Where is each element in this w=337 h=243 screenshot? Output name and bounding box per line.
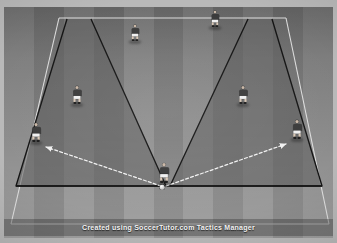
player-boots <box>293 137 301 139</box>
player-figure <box>73 86 82 104</box>
player-head <box>34 123 38 127</box>
player-head <box>295 120 299 124</box>
player-figure <box>292 120 301 139</box>
tactical-zones <box>16 19 322 186</box>
player-boots <box>212 25 219 27</box>
player-figure <box>31 123 40 142</box>
player-head <box>75 86 78 89</box>
player-shirt <box>160 167 169 174</box>
tactics-diagram-root: Created using SoccerTutor.com Tactics Ma… <box>0 0 337 243</box>
player-figure <box>159 163 169 183</box>
player-figure <box>239 86 248 104</box>
player-head <box>162 163 166 167</box>
diagram-caption: Created using SoccerTutor.com Tactics Ma… <box>4 219 333 236</box>
left-channel-zone <box>16 19 166 186</box>
player-boots <box>239 102 247 104</box>
player-boots <box>160 181 168 183</box>
player-figure <box>131 25 139 41</box>
player-boots <box>32 140 40 142</box>
soccer-ball <box>160 185 165 190</box>
player-head <box>241 86 244 89</box>
player-head <box>133 25 136 28</box>
player-head <box>213 11 216 14</box>
player-boots <box>132 39 139 41</box>
player-boots <box>73 102 81 104</box>
player-figure <box>211 11 219 27</box>
diagram-vector-layer <box>0 0 337 243</box>
